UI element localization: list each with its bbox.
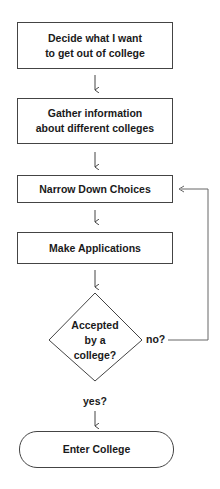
step-gather-information-line2: about different colleges: [36, 121, 154, 136]
yes-branch-label: yes?: [83, 395, 107, 407]
step-decide-goals: Decide what I want to get out of college: [17, 22, 173, 69]
decision-line1: Accepted: [60, 318, 130, 333]
step-make-applications: Make Applications: [17, 232, 173, 264]
decision-text: Accepted by a college?: [60, 318, 130, 363]
no-loop-line: [168, 189, 208, 340]
step-decide-goals-line1: Decide what I want: [45, 31, 145, 46]
terminal-enter-college: Enter College: [19, 431, 174, 468]
step-gather-information-line1: Gather information: [36, 106, 154, 121]
step-narrow-choices: Narrow Down Choices: [17, 175, 173, 203]
step-decide-goals-line2: to get out of college: [45, 46, 145, 61]
decision-line2: by a: [60, 333, 130, 348]
terminal-enter-college-label: Enter College: [63, 442, 131, 457]
no-branch-label: no?: [146, 333, 165, 345]
step-make-applications-label: Make Applications: [49, 241, 141, 256]
decision-line3: college?: [60, 348, 130, 363]
step-narrow-choices-label: Narrow Down Choices: [39, 182, 150, 197]
step-gather-information: Gather information about different colle…: [17, 98, 173, 144]
